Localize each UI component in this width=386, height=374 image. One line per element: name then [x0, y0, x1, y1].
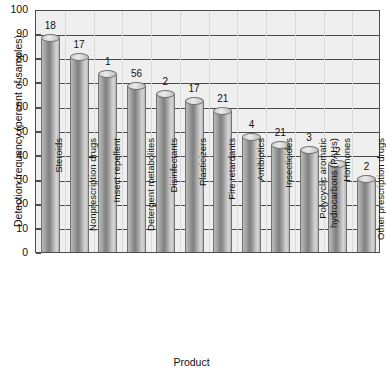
x-axis-title: Product	[0, 356, 383, 368]
y-tick-mark	[36, 253, 41, 254]
x-tick-label: Polycyclic aromatic hydrocarbons (PAHs)	[317, 138, 339, 258]
y-tick-mark	[36, 82, 41, 83]
bar-value-label: 17	[64, 39, 94, 50]
x-tick-label: Antibiotics	[255, 138, 266, 258]
column-separator	[237, 11, 238, 252]
bar-top-cap	[185, 97, 204, 105]
y-tick-mark	[36, 10, 41, 11]
y-tick-label: 20	[2, 197, 28, 209]
bar-value-label: 18	[35, 20, 65, 31]
bar-value-label: 4	[237, 119, 267, 130]
y-tick-label: 50	[2, 125, 28, 137]
y-tick-mark	[36, 228, 41, 229]
column-separator	[122, 11, 123, 252]
bar-value-label: 1	[93, 56, 123, 67]
y-tick-label: 70	[2, 76, 28, 88]
y-tick-label: 0	[2, 246, 28, 258]
x-tick-label: Steroids	[53, 138, 64, 258]
bar-top-cap	[156, 90, 175, 98]
bar-top-cap	[300, 146, 319, 154]
y-tick-label: 30	[2, 173, 28, 185]
y-tick-mark	[36, 155, 41, 156]
y-tick-mark	[36, 58, 41, 59]
bar-value-label: 21	[208, 93, 238, 104]
bar	[357, 179, 376, 253]
bar	[127, 86, 146, 253]
y-tick-mark	[36, 34, 41, 35]
y-tick-mark	[36, 107, 41, 108]
y-tick-label: 40	[2, 149, 28, 161]
bar-top-cap	[127, 82, 146, 90]
x-tick-label: Other prescription drugs	[375, 138, 386, 258]
x-tick-label: Fire retardants	[226, 138, 237, 258]
gridline	[36, 35, 379, 36]
y-tick-mark	[36, 180, 41, 181]
x-tick-label: Disinfectants	[168, 138, 179, 258]
y-tick-mark	[36, 204, 41, 205]
column-separator	[352, 11, 353, 252]
y-tick-mark	[36, 131, 41, 132]
y-tick-label: 90	[2, 27, 28, 39]
bar-top-cap	[213, 107, 232, 115]
x-tick-label: Plasticizers	[197, 138, 208, 258]
bar	[300, 150, 319, 254]
bar	[70, 57, 89, 253]
y-tick-label: 80	[2, 52, 28, 64]
column-separator	[180, 11, 181, 252]
y-tick-label: 10	[2, 222, 28, 234]
bar-top-cap	[357, 175, 376, 183]
column-separator	[209, 11, 210, 252]
x-tick-label: Detergent metabolites	[145, 138, 156, 258]
x-tick-label: Insecticides	[283, 138, 294, 258]
bar-value-label: 56	[122, 68, 152, 79]
y-tick-label: 60	[2, 100, 28, 112]
bar-value-label: 17	[179, 83, 209, 94]
bar-top-cap	[98, 70, 117, 78]
y-tick-label: 100	[2, 3, 28, 15]
bar-value-label: 21	[265, 127, 295, 138]
bar-top-cap	[41, 34, 60, 42]
bar-top-cap	[70, 53, 89, 61]
bar-value-label: 2	[150, 76, 180, 87]
x-tick-label: Insect repellent	[111, 138, 122, 258]
x-tick-label: Nonprescription drugs	[87, 138, 98, 258]
x-tick-label: Hormones	[341, 138, 352, 258]
